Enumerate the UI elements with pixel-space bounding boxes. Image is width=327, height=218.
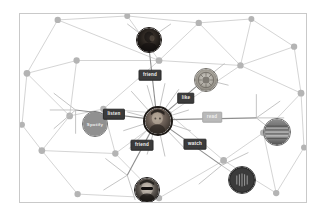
friend-bottom-avatar[interactable] [134,177,160,203]
article-image [264,119,290,145]
edge-label-watch-text: watch [188,141,202,146]
edge-label-friend-bottom-text: friend [135,142,149,147]
article-image-node[interactable] [263,118,291,146]
screenshot-root: Spotify [0,0,327,218]
edge-label-listen-text: listen [107,111,120,116]
spotify-service-label: Spotify [83,122,107,127]
like-badge-node[interactable] [194,68,218,92]
edge-label-watch[interactable]: watch [183,139,206,150]
edge-label-friend-bottom[interactable]: friend [131,140,154,151]
graph-canvas[interactable]: Spotify [19,13,307,203]
like-badge-image [195,69,217,91]
video-thumbnail-image [229,167,255,193]
edge-label-read-text: read [207,114,218,119]
ego-user-avatar-image [145,108,171,134]
ego-user-avatar[interactable] [143,106,173,136]
edge-label-read[interactable]: read [202,112,222,123]
friend-top-avatar-image [137,28,161,52]
friend-bottom-avatar-image [135,178,159,202]
edge-label-listen[interactable]: listen [103,109,125,120]
friend-top-avatar[interactable] [136,27,162,53]
edge-label-like[interactable]: like [177,93,194,104]
edge-label-friend-top-text: friend [143,72,157,77]
video-thumbnail-node[interactable] [228,166,256,194]
edge-label-friend-top[interactable]: friend [139,70,162,81]
edge-label-like-text: like [182,95,190,100]
